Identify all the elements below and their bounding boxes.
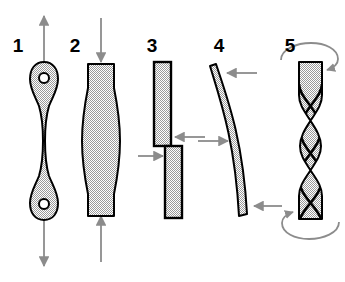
figure-label-1: 1 bbox=[13, 35, 24, 56]
shear-block-lower bbox=[165, 146, 182, 218]
tension-specimen-hole-top bbox=[39, 73, 49, 83]
figure-label-5: 5 bbox=[285, 35, 296, 56]
figure-label-2: 2 bbox=[70, 35, 81, 56]
shear-block-upper bbox=[154, 62, 171, 146]
figure-label-4: 4 bbox=[214, 35, 225, 56]
figure-label-3: 3 bbox=[147, 35, 158, 56]
diagram-canvas: 1 2 3 bbox=[0, 0, 345, 282]
tension-specimen-hole-bottom bbox=[39, 199, 49, 209]
compression-specimen-body bbox=[82, 64, 120, 216]
loading-modes-diagram: 1 2 3 bbox=[0, 0, 345, 282]
